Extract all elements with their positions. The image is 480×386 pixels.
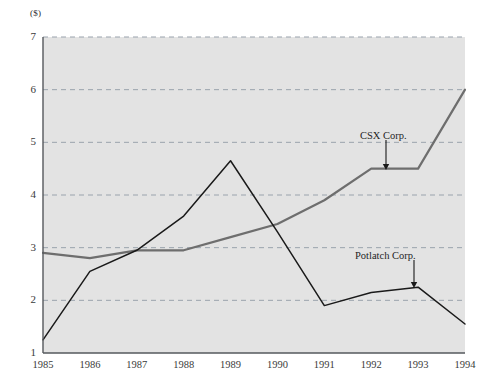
y-tick-label: 5 — [14, 136, 36, 147]
y-tick-label: 2 — [14, 294, 36, 305]
x-tick-label: 1994 — [435, 360, 480, 371]
y-axis-unit-label: ($) — [30, 8, 41, 18]
y-tick-label: 6 — [14, 84, 36, 95]
series-annotation-label: Potlatch Corp. — [355, 251, 416, 262]
y-tick-label: 4 — [14, 189, 36, 200]
plot-canvas — [0, 0, 480, 386]
y-tick-label: 7 — [14, 31, 36, 42]
line-chart: ($) 1234567 1985198619871988198919901991… — [0, 0, 480, 386]
y-tick-label: 1 — [14, 347, 36, 358]
y-tick-label: 3 — [14, 242, 36, 253]
series-annotation-label: CSX Corp. — [360, 131, 407, 142]
